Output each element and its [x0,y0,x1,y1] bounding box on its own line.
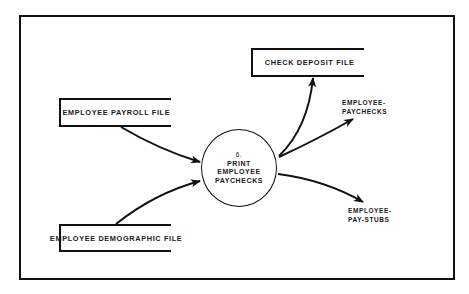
data-store-employee-payroll-file: EMPLOYEE PAYROLL FILE [59,98,171,127]
output-employee-pay-stubs: EMPLOYEE- PAY-STUBS [348,207,392,224]
data-store-label: CHECK DEPOSIT FILE [265,59,355,66]
data-store-employee-demographic-file: EMPLOYEE DEMOGRAPHIC FILE [59,224,171,252]
data-store-label: EMPLOYEE DEMOGRAPHIC FILE [50,235,183,242]
output-label-line-1: EMPLOYEE- [348,207,392,216]
output-label-line-2: PAYCHECKS [342,108,387,117]
data-store-check-deposit-file: CHECK DEPOSIT FILE [251,48,364,77]
output-label-line-2: PAY-STUBS [348,216,392,225]
output-employee-paychecks: EMPLOYEE- PAYCHECKS [342,99,387,116]
output-label-line-1: EMPLOYEE- [342,99,387,108]
data-flow-diagram: EMPLOYEE PAYROLL FILE EMPLOYEE DEMOGRAPH… [0,0,469,294]
process-print-employee-paychecks: 6. PRINT EMPLOYEE PAYCHECKS [201,129,277,207]
process-number: 6. [236,151,243,160]
data-store-label: EMPLOYEE PAYROLL FILE [62,109,170,116]
process-label-line-2: EMPLOYEE [217,168,261,177]
process-label-line-1: PRINT [227,160,251,169]
process-label-line-3: PAYCHECKS [215,177,263,186]
